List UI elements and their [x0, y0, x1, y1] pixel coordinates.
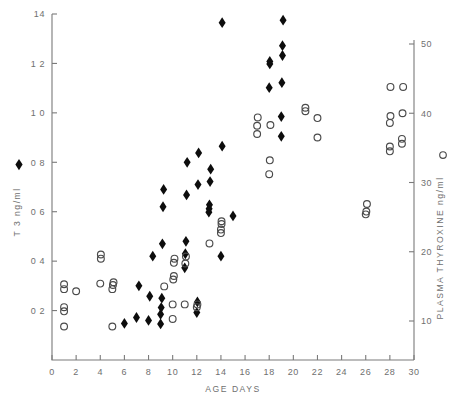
- y-axis-title-right: PLASMA THYROXINE ng/ml: [435, 176, 445, 319]
- data-point-thyroxine: [266, 157, 273, 164]
- data-point-thyroxine: [169, 301, 176, 308]
- data-point-thyroxine: [254, 122, 261, 129]
- data-point-thyroxine: [73, 288, 80, 295]
- data-point-thyroxine: [387, 113, 394, 120]
- data-point-t3: [195, 179, 202, 190]
- y-tick-label-right: 40: [421, 109, 432, 119]
- data-point-thyroxine: [161, 283, 168, 290]
- t3-legend-diamond-icon: [15, 159, 22, 170]
- data-point-t3: [278, 111, 285, 122]
- y-tick-label-right: 30: [421, 178, 432, 188]
- data-point-thyroxine: [61, 323, 68, 330]
- data-point-t3: [278, 77, 285, 88]
- data-point-t3: [158, 302, 165, 313]
- data-point-thyroxine: [206, 240, 213, 247]
- data-point-t3: [145, 315, 152, 326]
- y-tick-label-left: 14: [34, 9, 45, 19]
- x-tick-label: 12: [191, 367, 202, 377]
- data-point-t3: [159, 238, 166, 249]
- data-point-thyroxine: [386, 120, 393, 127]
- y-tick-label-left: 0 4: [31, 256, 45, 266]
- data-point-thyroxine: [314, 134, 321, 141]
- data-point-t3: [207, 176, 214, 187]
- data-point-thyroxine: [254, 114, 261, 121]
- left-bottom-spine: [52, 14, 414, 360]
- data-point-thyroxine: [97, 251, 104, 258]
- data-point-t3: [184, 157, 191, 168]
- y-axis-title-left: T 3 ng/ml: [12, 187, 22, 236]
- data-point-t3: [135, 280, 142, 291]
- data-point-t3: [219, 17, 226, 28]
- x-tick-label: 20: [288, 367, 299, 377]
- data-point-thyroxine: [171, 255, 178, 262]
- thyroxine-legend-circle-icon: [440, 152, 447, 159]
- data-point-thyroxine: [400, 84, 407, 91]
- data-point-thyroxine: [364, 201, 371, 208]
- x-tick-label: 28: [384, 367, 395, 377]
- series-t3: [121, 15, 287, 330]
- axis-titles: AGE DAYST 3 ng/mlPLASMA THYROXINE ng/ml: [12, 152, 446, 394]
- x-tick-label: 6: [122, 367, 128, 377]
- data-point-t3: [146, 291, 153, 302]
- x-tick-label: 2: [73, 367, 79, 377]
- y-tick-label-left: 1 0: [31, 108, 45, 118]
- data-point-t3: [217, 251, 224, 262]
- data-point-thyroxine: [254, 131, 261, 138]
- y-tick-label-right: 10: [421, 316, 432, 326]
- y-tick-label-right: 50: [421, 39, 432, 49]
- data-point-t3: [207, 164, 214, 175]
- data-point-thyroxine: [181, 301, 188, 308]
- data-point-thyroxine: [97, 280, 104, 287]
- y-tick-label-left: 0 6: [31, 207, 45, 217]
- y-tick-label-left: 0 2: [31, 306, 45, 316]
- y-tick-label-left: 1 2: [31, 59, 45, 69]
- data-point-t3: [230, 211, 237, 222]
- data-point-t3: [133, 312, 140, 323]
- x-axis-title: AGE DAYS: [205, 384, 260, 394]
- series-thyroxine: [61, 84, 407, 330]
- data-point-thyroxine: [61, 304, 68, 311]
- x-tick-label: 26: [360, 367, 371, 377]
- y-tick-label-left: 0 8: [31, 158, 45, 168]
- data-point-thyroxine: [266, 171, 273, 178]
- x-tick-label: 16: [239, 367, 250, 377]
- data-point-t3: [279, 50, 286, 61]
- x-tick-label: 4: [97, 367, 103, 377]
- x-tick-label: 22: [312, 367, 323, 377]
- data-point-t3: [121, 318, 128, 329]
- data-point-t3: [195, 147, 202, 158]
- data-point-t3: [219, 141, 226, 152]
- x-tick-label: 8: [146, 367, 152, 377]
- data-point-thyroxine: [61, 281, 68, 288]
- scatter-plot-figure: 0246810121416182022242628300 20 40 60 81…: [0, 0, 459, 401]
- data-point-thyroxine: [399, 135, 406, 142]
- data-point-thyroxine: [314, 115, 321, 122]
- data-point-t3: [149, 251, 156, 262]
- data-point-t3: [279, 40, 286, 51]
- data-point-thyroxine: [399, 110, 406, 117]
- data-point-t3: [266, 82, 273, 93]
- x-tick-label: 30: [408, 367, 419, 377]
- x-tick-label: 18: [264, 367, 275, 377]
- data-point-t3: [160, 201, 167, 212]
- x-tick-label: 14: [215, 367, 226, 377]
- data-point-thyroxine: [386, 143, 393, 150]
- data-point-thyroxine: [109, 323, 116, 330]
- data-point-thyroxine: [387, 84, 394, 91]
- data-point-thyroxine: [267, 122, 274, 129]
- data-point-t3: [278, 131, 285, 142]
- data-point-t3: [183, 190, 190, 201]
- data-point-thyroxine: [169, 316, 176, 323]
- y-tick-label-right: 20: [421, 247, 432, 257]
- data-point-t3: [158, 293, 165, 304]
- plot-canvas: 0246810121416182022242628300 20 40 60 81…: [0, 0, 459, 401]
- x-tick-label: 10: [167, 367, 178, 377]
- axes-group: 0246810121416182022242628300 20 40 60 81…: [31, 9, 433, 377]
- data-point-t3: [160, 184, 167, 195]
- x-tick-label: 24: [336, 367, 347, 377]
- x-tick-label: 0: [49, 367, 55, 377]
- data-point-t3: [280, 15, 287, 26]
- data-point-t3: [182, 236, 189, 247]
- data-point-t3: [157, 319, 164, 330]
